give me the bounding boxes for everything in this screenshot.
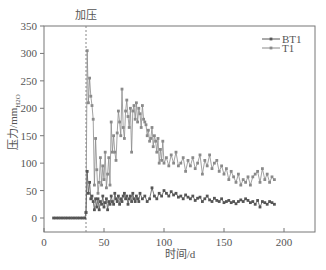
data-point (117, 195, 120, 198)
data-point (92, 200, 95, 203)
data-point (64, 217, 67, 220)
data-point (261, 167, 264, 170)
data-point (247, 175, 250, 178)
data-point (187, 159, 190, 162)
data-point (254, 173, 257, 176)
data-point (271, 201, 274, 204)
data-point (107, 156, 110, 159)
data-point (95, 168, 98, 171)
data-point (122, 126, 125, 129)
data-point (99, 200, 102, 203)
data-point (98, 208, 101, 211)
y-tick-label: 250 (21, 75, 38, 87)
data-point (271, 175, 274, 178)
data-point (55, 217, 58, 220)
data-point (128, 197, 131, 200)
data-point (215, 199, 218, 202)
data-point (206, 164, 209, 167)
data-point (113, 192, 116, 195)
data-point (266, 203, 269, 206)
data-point (199, 154, 202, 157)
x-tick-label: 50 (99, 236, 111, 248)
data-point (239, 184, 242, 187)
data-point (113, 151, 116, 154)
data-point (232, 200, 235, 203)
data-point (249, 201, 252, 204)
data-point (117, 110, 120, 113)
data-point (124, 197, 127, 200)
data-point (116, 200, 119, 203)
data-point (268, 200, 271, 203)
data-point (93, 184, 96, 187)
data-point (130, 200, 133, 203)
data-point (148, 140, 151, 143)
data-point (111, 200, 114, 203)
data-point (203, 197, 206, 200)
data-point (157, 137, 160, 140)
data-point (94, 197, 97, 200)
y-tick-label: 350 (21, 20, 38, 32)
data-point (121, 88, 124, 91)
data-point (239, 198, 242, 201)
data-point (93, 208, 96, 211)
data-point (187, 196, 190, 199)
data-point (254, 203, 257, 206)
data-point (136, 197, 139, 200)
data-point (109, 184, 112, 187)
data-point (172, 194, 175, 197)
data-point (106, 173, 109, 176)
data-point (134, 200, 137, 203)
data-point (223, 201, 226, 204)
data-point (201, 173, 204, 176)
data-point (141, 104, 144, 107)
data-point (71, 217, 74, 220)
data-point (259, 181, 262, 184)
data-point (123, 192, 126, 195)
data-point (101, 164, 104, 167)
data-point (237, 173, 240, 176)
data-point (112, 134, 115, 137)
data-point (218, 200, 221, 203)
data-point (153, 134, 156, 137)
data-point (263, 201, 266, 204)
data-point (94, 137, 97, 140)
data-point (196, 197, 199, 200)
data-point (201, 200, 204, 203)
data-point (152, 145, 155, 148)
data-point (74, 217, 77, 220)
data-point (89, 197, 92, 200)
data-point (109, 203, 112, 206)
data-point (107, 200, 110, 203)
data-point (179, 162, 182, 165)
data-point (208, 154, 211, 157)
data-point (175, 151, 178, 154)
x-axis-ticks: 050100150200 (41, 228, 293, 248)
data-point (194, 199, 197, 202)
data-point (215, 159, 218, 162)
data-point (160, 195, 163, 198)
data-point (256, 170, 259, 173)
data-point (273, 203, 276, 206)
data-point (111, 151, 114, 154)
data-point (87, 101, 90, 104)
x-axis-label: 时间/d (165, 248, 196, 260)
data-point (143, 195, 146, 198)
data-point (237, 200, 240, 203)
data-point (110, 121, 113, 124)
data-point (159, 148, 162, 151)
data-point (88, 181, 91, 184)
data-point (251, 175, 254, 178)
data-point (165, 192, 168, 195)
data-point (52, 217, 55, 220)
chart-canvas: 050100150200250300350 050100150200 BT1T1… (0, 0, 326, 270)
data-point (85, 211, 88, 214)
data-point (137, 107, 140, 110)
data-point (136, 121, 139, 124)
data-point (137, 200, 140, 203)
legend: BT1T1 (262, 33, 302, 54)
x-tick-label: 200 (276, 236, 293, 248)
data-point (213, 197, 216, 200)
data-point (100, 184, 103, 187)
data-point (167, 195, 170, 198)
data-point (131, 110, 134, 113)
